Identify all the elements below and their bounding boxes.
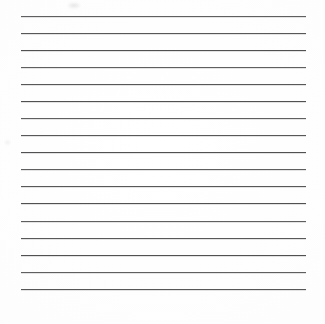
page-body-text: [21, 16, 306, 296]
document-page: [0, 0, 325, 324]
